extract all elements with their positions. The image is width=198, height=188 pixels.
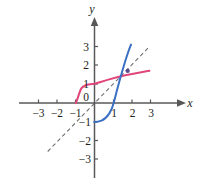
- x-tick-label--3: −3: [32, 107, 44, 119]
- y-tick-label--2: −2: [79, 135, 91, 147]
- inverse-function-graph-figure: −3 −2 −1 1 2 3 3 2 1 −1 −2 −3 0 x y: [0, 0, 198, 188]
- y-axis-arrowhead: [91, 17, 99, 26]
- intersection-point: [126, 69, 130, 73]
- identity-line-group: [48, 48, 148, 151]
- x-axis-label: x: [186, 96, 193, 110]
- y-tick-label--3: −3: [79, 153, 91, 165]
- x-axis-arrowhead: [177, 99, 186, 107]
- y-axis-label: y: [88, 2, 95, 16]
- x-tick-label--2: −2: [51, 107, 63, 119]
- y-axis-group: [91, 17, 99, 178]
- x-tick-label-1: 1: [111, 107, 117, 119]
- y-tick-label-1: 1: [83, 78, 89, 90]
- identity-line-y-equals-x: [48, 48, 148, 151]
- x-tick-label-2: 2: [130, 107, 136, 119]
- x-tick-label-3: 3: [148, 107, 154, 119]
- y-tick-label-3: 3: [83, 41, 89, 53]
- y-tick-label-2: 2: [83, 59, 89, 71]
- x-axis-group: [19, 99, 186, 107]
- coordinate-plane-svg: −3 −2 −1 1 2 3 3 2 1 −1 −2 −3 0 x y: [0, 0, 198, 188]
- origin-label: 0: [83, 91, 89, 103]
- y-tick-label--1: −1: [79, 116, 91, 128]
